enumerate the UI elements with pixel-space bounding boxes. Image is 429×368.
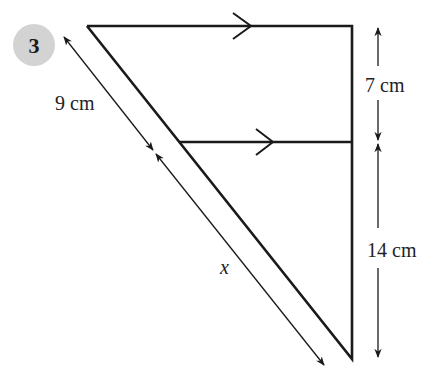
dimension-arrow-x bbox=[156, 154, 324, 365]
triangle-diagram: 3 9 cm x 7 cm 14 cm bbox=[0, 0, 429, 368]
label-14cm: 14 cm bbox=[367, 239, 417, 261]
label-9cm: 9 cm bbox=[55, 92, 95, 114]
triangle bbox=[87, 26, 352, 359]
triangle-outline bbox=[87, 26, 352, 359]
label-x: x bbox=[219, 256, 229, 278]
question-number-badge: 3 bbox=[13, 24, 55, 66]
label-7cm: 7 cm bbox=[365, 74, 405, 96]
question-number: 3 bbox=[29, 33, 40, 58]
